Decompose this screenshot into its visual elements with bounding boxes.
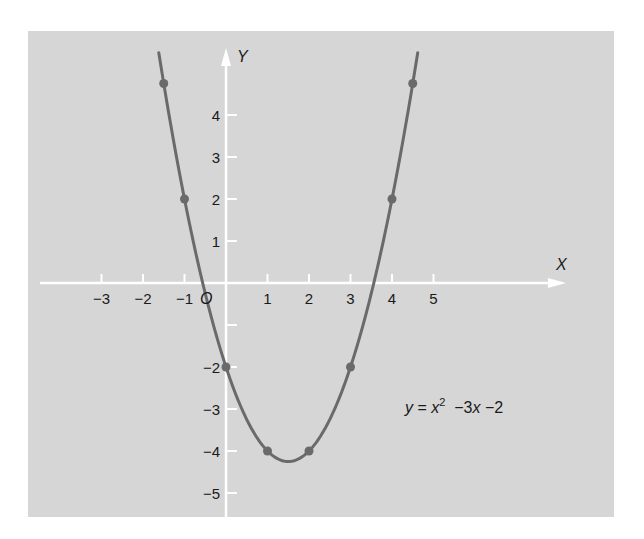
data-point [388,195,397,204]
y-tick-label: −5 [203,485,220,502]
equation-equals: = [413,399,431,416]
x-tick-label: −2 [134,290,151,307]
y-tick-label: −4 [203,443,220,460]
y-axis-label: Y [237,48,249,65]
y-tick-label: −2 [203,359,220,376]
origin-label: O [200,290,212,307]
x-tick-label: 4 [388,290,396,307]
y-tick-label: 4 [212,107,220,124]
x-axis-label: X [555,256,568,273]
data-point [305,447,314,456]
equation-term-b: −2 [481,399,504,416]
data-point [408,79,417,88]
data-point [346,363,355,372]
y-tick-label: −3 [203,401,220,418]
x-tick-label: 1 [263,290,271,307]
parabola-chart: −3−2−112345 4321−2−3−4−5 X Y O y = x2 −3… [0,0,644,539]
data-point [222,363,231,372]
y-tick-label: 3 [212,149,220,166]
y-tick-label: 1 [212,233,220,250]
data-point [159,79,168,88]
y-tick-label: 2 [212,191,220,208]
equation-term-a: −3 [445,399,472,416]
plot-panel [28,31,614,517]
x-tick-label: 2 [305,290,313,307]
data-point [263,447,272,456]
x-tick-label: 3 [346,290,354,307]
data-point [180,195,189,204]
x-tick-label: −1 [176,290,193,307]
x-tick-label: −3 [93,290,110,307]
x-tick-label: 5 [429,290,437,307]
equation-label: y = x2 −3x −2 [404,396,503,416]
